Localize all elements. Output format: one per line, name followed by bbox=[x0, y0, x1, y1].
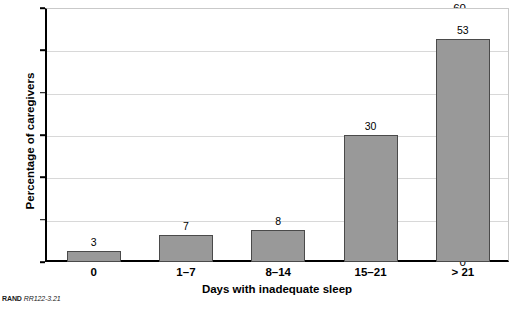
bar-series: 3783053 bbox=[48, 8, 510, 262]
bar[interactable] bbox=[159, 235, 213, 262]
bar-slot: 30 bbox=[324, 8, 416, 262]
bar[interactable] bbox=[436, 39, 490, 262]
x-axis-tick-label: 0 bbox=[48, 266, 140, 278]
source-note: RAND RR122-3.21 bbox=[2, 295, 61, 302]
bar-value-label: 53 bbox=[436, 24, 490, 36]
x-axis-tick-label: 1–7 bbox=[140, 266, 232, 278]
x-axis-tick-label: 15–21 bbox=[324, 266, 416, 278]
x-axis-tick-label: > 21 bbox=[417, 266, 509, 278]
bar-value-label: 8 bbox=[251, 215, 305, 227]
bar-value-label: 7 bbox=[159, 220, 213, 232]
bar-chart-figure: Percentage of caregivers 0102030405060 3… bbox=[0, 0, 517, 310]
y-axis-title: Percentage of caregivers bbox=[24, 16, 36, 266]
bar-slot: 8 bbox=[232, 8, 324, 262]
bar-value-label: 30 bbox=[344, 120, 398, 132]
bar-slot: 3 bbox=[48, 8, 140, 262]
bar-slot: 53 bbox=[417, 8, 509, 262]
bar-slot: 7 bbox=[140, 8, 232, 262]
x-axis-tick-label: 8–14 bbox=[232, 266, 324, 278]
bar-value-label: 3 bbox=[67, 236, 121, 248]
bar[interactable] bbox=[67, 251, 121, 262]
x-axis-title: Days with inadequate sleep bbox=[45, 283, 509, 295]
bar[interactable] bbox=[251, 230, 305, 262]
source-brand: RAND bbox=[2, 295, 22, 302]
bar[interactable] bbox=[344, 135, 398, 262]
source-document-id: RR122-3.21 bbox=[24, 295, 61, 302]
